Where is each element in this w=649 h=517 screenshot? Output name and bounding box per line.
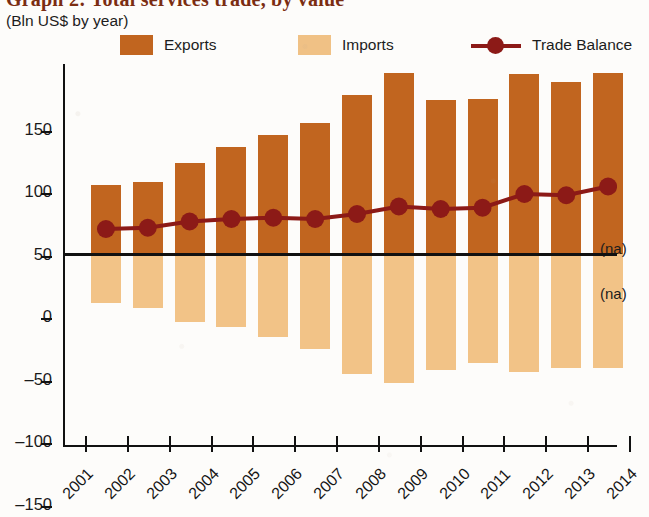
trade-balance-marker-2010 [474, 199, 492, 217]
y-axis-tick-label: –50 [24, 370, 52, 389]
x-axis-tick-label: 2013 [561, 465, 599, 503]
legend-item-imports: Imports [298, 33, 394, 57]
x-axis-tick-label: 2009 [394, 465, 432, 503]
trade-balance-marker-2005 [264, 209, 282, 227]
y-axis-tick [41, 318, 52, 320]
y-axis-tick-label: 150 [24, 120, 52, 139]
x-axis-tick-label: 2006 [268, 465, 306, 503]
legend-label-trade-balance: Trade Balance [532, 36, 632, 54]
legend-item-trade-balance: Trade Balance [471, 33, 632, 57]
x-axis-tick-label: 2012 [519, 465, 557, 503]
y-axis-tick-label: 0 [43, 307, 52, 326]
x-axis-labels: 2001200220032004200520062007200820092010… [0, 452, 649, 512]
x-axis-tick-label: 2011 [477, 466, 514, 503]
y-axis-tick [41, 381, 52, 383]
x-axis-tick-label: 2014 [603, 465, 641, 503]
plot-area [63, 64, 617, 447]
trade-balance-marker-2013 [599, 178, 617, 196]
y-axis-labels: 150100500–50–100–150 [0, 64, 52, 447]
y-axis-tick-label: 50 [34, 245, 52, 264]
trade-balance-marker-2011 [515, 185, 533, 203]
chart-title: Graph 2: Total services trade, by value [6, 0, 344, 11]
trade-balance-marker-2006 [306, 210, 324, 228]
trade-balance-marker-2007 [348, 205, 366, 223]
legend-swatch-trade-balance [471, 35, 521, 55]
x-axis-tick [629, 436, 631, 452]
x-axis-tick-label: 2003 [143, 465, 181, 503]
x-axis-tick-label: 2005 [226, 465, 264, 503]
x-axis-tick-label: 2002 [101, 465, 139, 503]
x-axis-tick-label: 2004 [185, 465, 223, 503]
chart-subtitle: (Bln US$ by year) [6, 12, 128, 30]
x-axis-tick-label: 2001 [59, 465, 97, 503]
trade-balance-marker-2008 [390, 198, 408, 216]
x-axis-tick-label: 2010 [436, 465, 474, 503]
y-axis-tick [41, 131, 52, 133]
chart-legend: Exports Imports Trade Balance [120, 33, 640, 57]
y-axis-tick-label: –100 [15, 432, 52, 451]
legend-swatch-exports [120, 35, 153, 55]
legend-label-exports: Exports [164, 36, 217, 54]
legend-swatch-imports [298, 35, 331, 55]
trade-balance-marker-2009 [432, 200, 450, 218]
y-axis-tick [41, 193, 52, 195]
trade-balance-marker-2004 [222, 210, 240, 228]
legend-label-imports: Imports [342, 36, 394, 54]
trade-balance-marker-2002 [139, 219, 157, 237]
x-axis-tick-label: 2007 [310, 465, 348, 503]
trade-balance-marker-2003 [181, 213, 199, 231]
y-axis-tick-label: 100 [24, 182, 52, 201]
trade-balance-marker-2001 [97, 220, 115, 238]
trade-balance-line [63, 64, 617, 447]
y-axis-tick [41, 256, 52, 258]
y-axis-tick [41, 443, 52, 445]
legend-item-exports: Exports [120, 33, 217, 57]
trade-balance-marker-2012 [557, 186, 575, 204]
x-axis-tick-label: 2008 [352, 465, 390, 503]
